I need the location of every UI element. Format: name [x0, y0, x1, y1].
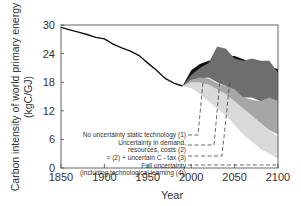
- annotation-4b: (including technological learning (4)): [80, 169, 186, 177]
- x-axis-label: Year: [161, 189, 184, 201]
- y-axis-label: Carbon intensity of world primary energy: [9, 2, 21, 191]
- historical-line: [61, 27, 183, 86]
- y-tick-label: 6: [49, 133, 55, 145]
- annotation-1: No uncertainty static technology (1): [83, 131, 186, 139]
- chart: 185019001950200020502100 0612182430 No u…: [0, 0, 301, 206]
- y-axis-label-unit: (kgC/GJ): [22, 76, 34, 118]
- y-tick-label: 0: [49, 162, 55, 174]
- annotation-2b: resources, costs (2): [128, 146, 186, 154]
- y-tick-label: 12: [43, 105, 55, 117]
- annotation-3: = (2) + uncertain C - tax (3): [106, 154, 186, 162]
- x-tick-label: 2050: [222, 171, 246, 183]
- y-tick-label: 18: [43, 76, 55, 88]
- x-tick-label: 2100: [266, 171, 290, 183]
- uncertainty-bands: [183, 47, 279, 159]
- y-tick-label: 24: [43, 48, 55, 60]
- y-tick-label: 30: [43, 19, 55, 31]
